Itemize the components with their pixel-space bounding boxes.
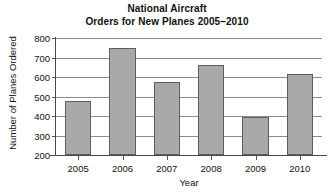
x-axis-tick-label: 2007 — [145, 163, 189, 174]
bar-series — [56, 38, 322, 155]
y-axis-label-container: Number of Planes Ordered — [6, 30, 20, 156]
x-axis-tick-label: 2008 — [189, 163, 233, 174]
bar — [242, 117, 269, 155]
bar — [109, 48, 136, 155]
x-axis-tick-labels: 200520062007200820092010 — [56, 163, 322, 175]
x-axis-tick-marks — [56, 156, 322, 161]
y-axis-tick-label: 300 — [24, 132, 50, 141]
x-axis-tick-mark — [78, 156, 79, 160]
y-axis-tick-label: 600 — [24, 73, 50, 82]
x-axis-tick-label: 2005 — [56, 163, 100, 174]
y-axis-tick-label: 400 — [24, 112, 50, 121]
x-axis-tick-label: 2009 — [234, 163, 278, 174]
x-axis-label: Year — [56, 177, 322, 188]
x-axis-tick-mark — [300, 156, 301, 160]
chart-title-line-2: Orders for New Planes 2005–2010 — [0, 15, 334, 28]
y-axis-label: Number of Planes Ordered — [8, 36, 18, 150]
bar-chart-figure: National Aircraft Orders for New Planes … — [0, 0, 334, 196]
y-axis-tick-label: 800 — [24, 34, 50, 43]
bar — [154, 82, 181, 155]
x-axis-tick-label: 2010 — [278, 163, 322, 174]
x-axis-tick-mark — [256, 156, 257, 160]
y-axis-tick-labels: 200300400500600700800 — [22, 38, 50, 155]
x-axis-tick-mark — [167, 156, 168, 160]
chart-title: National Aircraft Orders for New Planes … — [0, 2, 334, 28]
x-axis-tick-mark — [211, 156, 212, 160]
x-axis-tick-label: 2006 — [101, 163, 145, 174]
bar — [287, 74, 314, 155]
y-axis-tick-label: 200 — [24, 151, 50, 160]
bar — [65, 101, 92, 155]
x-axis-tick-mark — [123, 156, 124, 160]
y-axis-tick-label: 500 — [24, 93, 50, 102]
bar — [198, 65, 225, 155]
chart-title-line-1: National Aircraft — [0, 2, 334, 15]
y-axis-tick-label: 700 — [24, 54, 50, 63]
